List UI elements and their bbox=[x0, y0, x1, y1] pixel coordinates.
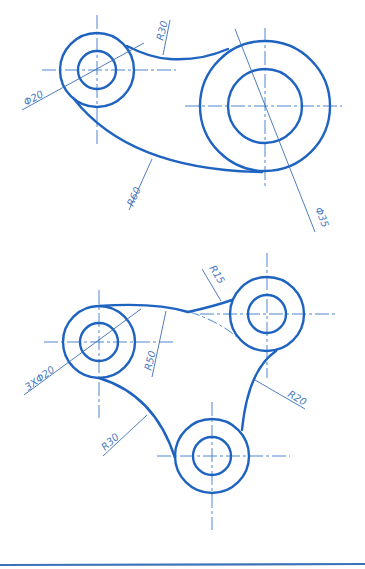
top-fillet-arc bbox=[127, 46, 228, 59]
bottom-connecting-arc bbox=[74, 99, 262, 172]
dim-line-top-arc bbox=[152, 311, 166, 377]
figure-1: Φ20 R30 R60 Φ35 bbox=[22, 15, 342, 232]
dim-label-small-hole: Φ20 bbox=[22, 88, 45, 107]
dim-label-holes: 3XΦ20 bbox=[23, 364, 57, 393]
dim-line-large-hole bbox=[235, 29, 315, 232]
dim-label-top-fillet: R30 bbox=[154, 20, 169, 42]
figure-2: 3XΦ20 R50 R15 R20 R30 bbox=[23, 253, 335, 530]
right-connecting-arc bbox=[242, 351, 276, 430]
dim-label-large-hole: Φ35 bbox=[313, 206, 331, 229]
top-fillet-arc bbox=[188, 300, 232, 312]
dim-label-top-arc: R50 bbox=[142, 350, 157, 372]
page-bottom-rule bbox=[0, 564, 365, 565]
dim-label-bottom-arc: R60 bbox=[125, 185, 143, 207]
drawing-canvas: Φ20 R30 R60 Φ35 bbox=[0, 0, 365, 569]
